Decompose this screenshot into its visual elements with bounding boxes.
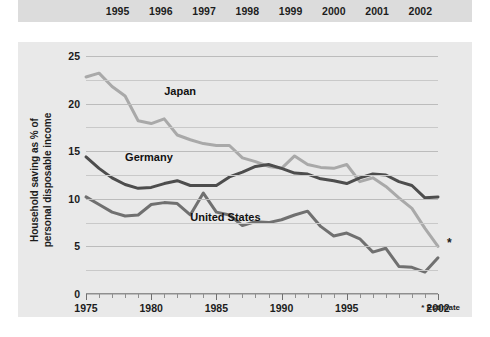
table-header-year-2002: 2002 bbox=[399, 5, 442, 17]
x-tick-label-1985: 1985 bbox=[205, 302, 228, 314]
x-tick-1981 bbox=[164, 294, 165, 298]
x-tick-1990 bbox=[282, 294, 283, 300]
x-tick-1976 bbox=[99, 294, 100, 298]
gridline-y-12.5 bbox=[86, 175, 438, 176]
x-tick-1996 bbox=[360, 294, 361, 298]
y-tick-label-20: 20 bbox=[68, 98, 80, 110]
x-tick-label-1995: 1995 bbox=[335, 302, 358, 314]
estimate-asterisk-marker: * bbox=[447, 236, 452, 250]
table-header-year-2000: 2000 bbox=[312, 5, 355, 17]
table-header-year-1998: 1998 bbox=[226, 5, 269, 17]
x-tick-1979 bbox=[138, 294, 139, 298]
gridline-y-17.5 bbox=[86, 127, 438, 128]
x-tick-1991 bbox=[295, 294, 296, 298]
y-tick-label-15: 15 bbox=[68, 145, 80, 157]
x-tick-1986 bbox=[229, 294, 230, 298]
x-tick-1994 bbox=[334, 294, 335, 298]
x-tick-2002 bbox=[438, 294, 439, 300]
x-tick-label-1975: 1975 bbox=[74, 302, 97, 314]
x-tick-2001 bbox=[425, 294, 426, 298]
x-tick-2000 bbox=[412, 294, 413, 298]
gridline-y-2.5 bbox=[86, 270, 438, 271]
gridline-y-7.5 bbox=[86, 223, 438, 224]
x-tick-1993 bbox=[321, 294, 322, 298]
gridline-y-5 bbox=[86, 246, 438, 247]
x-tick-1978 bbox=[125, 294, 126, 298]
table-header-year-1999: 1999 bbox=[269, 5, 312, 17]
y-axis-label-line2: personal disposable income bbox=[41, 75, 54, 285]
x-tick-1983 bbox=[190, 294, 191, 298]
chart-panel: Household saving as % of personal dispos… bbox=[18, 42, 472, 317]
table-header-year-1995: 1995 bbox=[96, 5, 139, 17]
gridline-y-20 bbox=[86, 104, 438, 105]
y-axis-label: Household saving as % of personal dispos… bbox=[29, 75, 54, 285]
gridline-y-10 bbox=[86, 199, 438, 200]
plot-area: 0510152025 197519801985199019952002 Japa… bbox=[86, 56, 438, 294]
x-tick-1975 bbox=[86, 294, 87, 300]
x-tick-1985 bbox=[216, 294, 217, 300]
x-tick-1992 bbox=[308, 294, 309, 298]
table-header-year-2001: 2001 bbox=[356, 5, 399, 17]
table-header-row: 1995 1996 1997 1998 1999 2000 2001 2002 bbox=[18, 0, 472, 22]
x-tick-1995 bbox=[347, 294, 348, 300]
y-tick-label-25: 25 bbox=[68, 50, 80, 62]
x-tick-1982 bbox=[177, 294, 178, 298]
x-tick-1989 bbox=[269, 294, 270, 298]
x-tick-1984 bbox=[203, 294, 204, 298]
series-line-united-states bbox=[86, 193, 438, 272]
y-tick-label-0: 0 bbox=[74, 288, 80, 300]
x-tick-1998 bbox=[386, 294, 387, 298]
series-label-germany: Germany bbox=[125, 151, 173, 163]
x-tick-label-1980: 1980 bbox=[139, 302, 162, 314]
y-axis-label-line1: Household saving as % of bbox=[29, 75, 42, 285]
x-tick-1987 bbox=[242, 294, 243, 298]
y-tick-label-5: 5 bbox=[74, 240, 80, 252]
gridline-y-22.5 bbox=[86, 80, 438, 81]
series-label-japan: Japan bbox=[164, 85, 196, 97]
estimate-footnote: * Estimate bbox=[421, 303, 460, 312]
y-tick-label-10: 10 bbox=[68, 193, 80, 205]
x-tick-1997 bbox=[373, 294, 374, 298]
truncated-table-header: 1995 1996 1997 1998 1999 2000 2001 2002 bbox=[18, 0, 472, 22]
table-header-year-1997: 1997 bbox=[183, 5, 226, 17]
x-tick-1988 bbox=[255, 294, 256, 298]
x-tick-1977 bbox=[112, 294, 113, 298]
table-header-year-1996: 1996 bbox=[139, 5, 182, 17]
x-tick-label-1990: 1990 bbox=[270, 302, 293, 314]
series-label-united-states: United States bbox=[190, 211, 260, 223]
x-tick-1999 bbox=[399, 294, 400, 298]
x-tick-1980 bbox=[151, 294, 152, 300]
gridline-y-25 bbox=[86, 56, 438, 57]
